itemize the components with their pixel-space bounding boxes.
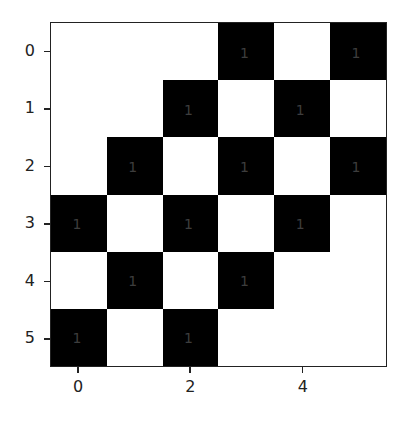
heatmap-cell: 1 <box>163 195 219 252</box>
y-tick-label: 2 <box>25 156 35 176</box>
cell-value-label: 1 <box>105 273 161 289</box>
cell-value-label: 1 <box>216 44 272 60</box>
y-tick-label: 3 <box>25 213 35 233</box>
heatmap-cell <box>274 137 330 194</box>
heatmap-axes: 11111111111111 <box>50 22 387 367</box>
x-tick-label: 4 <box>288 377 318 396</box>
heatmap-cell <box>274 309 330 366</box>
cell-value-label: 1 <box>49 330 105 346</box>
heatmap-cell <box>330 195 386 252</box>
heatmap-cell: 1 <box>107 252 163 309</box>
heatmap-cell <box>218 195 274 252</box>
y-tick-label: 0 <box>25 41 35 61</box>
cell-value-label: 1 <box>216 273 272 289</box>
heatmap-cell: 1 <box>51 309 107 366</box>
heatmap-cell: 1 <box>274 195 330 252</box>
cell-value-label: 1 <box>272 102 328 118</box>
heatmap-cell: 1 <box>218 137 274 194</box>
heatmap-cell <box>107 195 163 252</box>
y-tick: 2 <box>0 156 50 176</box>
y-tick: 0 <box>0 41 50 61</box>
cell-value-label: 1 <box>161 330 217 346</box>
y-tick: 4 <box>0 271 50 291</box>
heatmap-cell: 1 <box>163 80 219 137</box>
cell-value-label: 1 <box>328 159 384 175</box>
heatmap-cell <box>274 23 330 80</box>
heatmap-cell <box>107 309 163 366</box>
heatmap-cell <box>163 23 219 80</box>
y-tick-mark <box>44 281 50 283</box>
y-tick: 5 <box>0 328 50 348</box>
y-tick-mark <box>44 108 50 110</box>
y-tick: 3 <box>0 213 50 233</box>
heatmap-cell: 1 <box>163 309 219 366</box>
heatmap-cell: 1 <box>218 23 274 80</box>
y-tick-label: 5 <box>25 328 35 348</box>
heatmap-cell <box>218 309 274 366</box>
heatmap-cell <box>51 137 107 194</box>
x-tick-mark <box>302 367 304 373</box>
x-tick-label: 0 <box>63 377 93 396</box>
heatmap-cell <box>107 80 163 137</box>
x-tick: 0 <box>63 367 93 407</box>
x-tick-mark <box>77 367 79 373</box>
heatmap-cell <box>107 23 163 80</box>
x-tick: 2 <box>175 367 205 407</box>
heatmap-cell <box>163 137 219 194</box>
heatmap-cell <box>330 252 386 309</box>
heatmap-cell <box>51 252 107 309</box>
heatmap-cell <box>330 80 386 137</box>
heatmap-cell: 1 <box>330 23 386 80</box>
cell-value-label: 1 <box>328 44 384 60</box>
cell-value-label: 1 <box>105 159 161 175</box>
y-tick-label: 4 <box>25 271 35 291</box>
heatmap-cell <box>330 309 386 366</box>
cell-value-label: 1 <box>216 159 272 175</box>
y-tick-mark <box>44 338 50 340</box>
x-tick: 4 <box>288 367 318 407</box>
y-tick: 1 <box>0 98 50 118</box>
cell-value-label: 1 <box>272 216 328 232</box>
heatmap-cell <box>163 252 219 309</box>
heatmap-cell: 1 <box>274 80 330 137</box>
heatmap-cell <box>218 80 274 137</box>
cell-value-label: 1 <box>49 216 105 232</box>
cell-value-label: 1 <box>161 102 217 118</box>
y-tick-mark <box>44 166 50 168</box>
heatmap-cell <box>51 23 107 80</box>
heatmap-cell <box>51 80 107 137</box>
x-tick-mark <box>189 367 191 373</box>
heatmap-cell: 1 <box>330 137 386 194</box>
cell-value-label: 1 <box>161 216 217 232</box>
y-tick-label: 1 <box>25 98 35 118</box>
y-tick-mark <box>44 223 50 225</box>
heatmap-cell: 1 <box>107 137 163 194</box>
heatmap-cell <box>274 252 330 309</box>
x-tick-label: 2 <box>175 377 205 396</box>
heatmap-cell: 1 <box>218 252 274 309</box>
heatmap-cell: 1 <box>51 195 107 252</box>
heatmap-grid: 11111111111111 <box>51 23 386 366</box>
y-tick-mark <box>44 51 50 53</box>
